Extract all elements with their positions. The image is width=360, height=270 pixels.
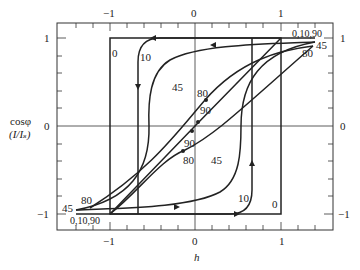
left-tick-0: 0 [44,121,50,132]
curve-80-lower [110,46,313,214]
bottom-tick-neg1: −1 [103,236,115,247]
hysteresis-plot [0,0,360,270]
arrow-dot-icon [196,120,200,124]
label-tr-45: 45 [316,40,327,51]
x-axis-label: h [194,252,200,263]
label-lo-45: 45 [211,155,222,166]
arrow-left-icon [210,42,216,48]
right-tick-1: 1 [340,33,346,44]
bottom-tick-1: 1 [279,236,285,247]
label-up-10: 10 [140,52,151,63]
left-tick-neg1: −1 [37,209,49,220]
arrow-down-icon [135,84,141,90]
label-lo-90: 90 [184,138,195,149]
label-bl-45: 45 [62,203,73,214]
label-bl-80: 80 [81,195,92,206]
label-tr-80: 80 [302,48,313,59]
arrow-right-icon [174,204,180,210]
left-tick-1: 1 [44,33,50,44]
label-bl-0-10-90: 0,10,90 [70,215,100,226]
y-axis-label: cosφ [10,116,31,127]
label-lo-80: 80 [183,155,194,166]
label-up-45: 45 [172,82,183,93]
label-tr-0-10-90: 0,10,90 [292,28,322,39]
right-tick-neg1: −1 [338,209,350,220]
right-tick-0: 0 [340,121,346,132]
label-lo-10: 10 [238,193,249,204]
bottom-tick-0: 0 [192,236,198,247]
top-tick-0: 0 [191,8,197,19]
arrow-dot-icon [190,129,194,133]
label-lo-0: 0 [272,199,278,210]
label-up-90: 90 [200,105,211,116]
arrow-up-icon [249,160,255,166]
top-tick-neg1: −1 [103,8,115,19]
label-up-0: 0 [112,48,118,59]
curve-80-upper [90,46,313,208]
top-tick-1: 1 [278,8,284,19]
y-axis-sublabel: (I/Iₛ) [9,129,30,140]
label-up-80: 80 [197,88,208,99]
arrow-dot-icon [181,149,185,153]
